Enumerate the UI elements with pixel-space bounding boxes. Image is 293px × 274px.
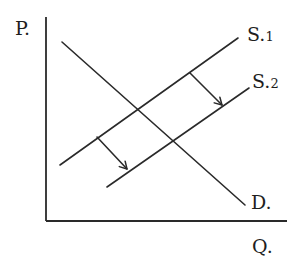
supply-2-label-main: S. xyxy=(252,70,270,92)
supply-curve-1 xyxy=(60,38,238,165)
supply-1-label: S.1 xyxy=(247,25,274,44)
price-axis-label: P. xyxy=(15,19,30,38)
supply-2-label-sub: 2 xyxy=(270,76,278,91)
demand-curve xyxy=(62,42,245,205)
quantity-axis-label: Q. xyxy=(252,237,273,256)
supply-2-label: S.2 xyxy=(252,72,279,91)
supply-curve-2 xyxy=(107,88,249,187)
shift-arrow-icon xyxy=(97,137,127,169)
supply-1-label-sub: 1 xyxy=(265,29,273,44)
demand-label: D. xyxy=(251,193,272,212)
supply-demand-diagram: P. Q. D. S.1 S.2 xyxy=(0,0,293,274)
supply-1-label-main: S. xyxy=(247,23,265,45)
shift-arrow-icon xyxy=(190,73,222,105)
